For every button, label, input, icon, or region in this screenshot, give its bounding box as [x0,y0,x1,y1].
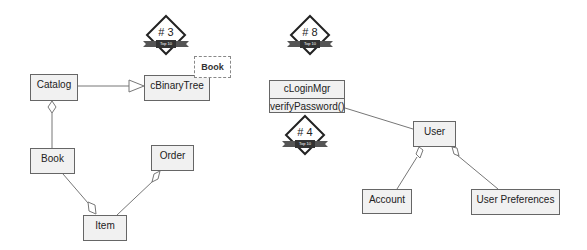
rank-badge: # 8 Top 10 [285,14,335,60]
aggregation-diamond [48,101,56,113]
class-item[interactable]: Item [83,215,127,241]
class-name: cLoginMgr [270,81,344,99]
class-cbinarytree[interactable]: cBinaryTree [144,75,210,101]
template-parameter-label: Book [201,62,224,72]
class-name: Catalog [31,75,77,90]
generalization-arrowhead [129,80,144,92]
class-cloginmgr[interactable]: cLoginMgr verifyPassword() [269,80,345,113]
aggregation-line [397,157,417,189]
class-name: User Preferences [472,190,559,205]
class-book[interactable]: Book [30,148,75,174]
class-account[interactable]: Account [362,189,412,214]
class-user[interactable]: User [413,121,456,147]
aggregation-line [117,181,153,215]
aggregation-diamond [452,147,459,156]
rank-badge: # 3 Top 10 [141,14,191,60]
class-name: Order [152,146,193,161]
class-name: Account [363,190,411,205]
class-name: Book [31,149,74,164]
class-name: Item [84,216,126,231]
badge-number: # 4 [280,126,330,138]
class-order[interactable]: Order [151,145,194,171]
class-user-preferences[interactable]: User Preferences [471,189,560,215]
aggregation-diamond [416,147,423,158]
class-operation: verifyPassword() [270,99,344,112]
aggregation-diamond [88,202,96,214]
class-name: cBinaryTree [145,76,209,91]
aggregation-line [63,174,88,203]
badge-number: # 3 [141,26,191,38]
badge-ribbon-label: Top 10 [301,41,319,47]
template-parameter-book: Book [194,56,231,78]
class-catalog[interactable]: Catalog [30,74,78,101]
association-line [345,108,413,129]
badge-ribbon-label: Top 10 [157,41,175,47]
class-name: User [414,122,455,137]
rank-badge: # 4 Top 10 [280,114,330,160]
aggregation-diamond [152,171,160,182]
badge-ribbon-label: Top 10 [296,141,314,147]
aggregation-line [457,155,498,189]
badge-number: # 8 [285,26,335,38]
